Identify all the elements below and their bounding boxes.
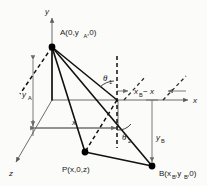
theta2-subscript: 2 xyxy=(128,138,131,144)
y-a-subscript: A xyxy=(28,95,32,101)
point-a-marker xyxy=(49,44,56,51)
point-b-label-group: B(x B ,y B ,0) xyxy=(159,169,197,180)
edge-a-to-p xyxy=(52,47,85,152)
xb-minus-x-tail: − x xyxy=(143,87,155,96)
y-a-label: y xyxy=(21,90,27,99)
geometry-figure: y x z y A x y B xyxy=(0,0,207,186)
dashed-through-a-lower-left xyxy=(20,47,52,94)
point-a-label: A(0,y xyxy=(60,28,79,37)
point-p-marker xyxy=(82,149,89,156)
dashed-reference-lines xyxy=(20,47,186,152)
point-a-label-tail: ,0) xyxy=(87,28,97,37)
point-b-label: B(x xyxy=(159,169,171,178)
figure-canvas: y x z y A x y B xyxy=(0,0,207,186)
solid-edges xyxy=(52,47,152,166)
theta1-label: θ xyxy=(103,73,108,83)
point-p-label: P(x,0,z) xyxy=(62,165,90,174)
edge-a-to-b xyxy=(52,47,152,166)
y-b-subscript: B xyxy=(161,138,165,144)
theta1-subscript: 1 xyxy=(109,79,112,85)
dashed-parallel-z-far xyxy=(163,76,186,100)
point-b-label-tail: ,0) xyxy=(187,169,197,178)
point-b-marker xyxy=(149,163,156,170)
z-axis-label: z xyxy=(8,169,13,178)
dashed-origin-to-p xyxy=(85,100,117,152)
x-axis-label: x xyxy=(192,96,198,105)
point-b-label-mid: ,y xyxy=(175,169,181,178)
y-axis-label: y xyxy=(44,7,50,16)
theta2-label: θ xyxy=(122,132,127,142)
point-a-label-group: A(0,y A ,0) xyxy=(60,28,97,39)
z-axis-line xyxy=(16,100,52,162)
y-b-dimension xyxy=(146,100,158,162)
